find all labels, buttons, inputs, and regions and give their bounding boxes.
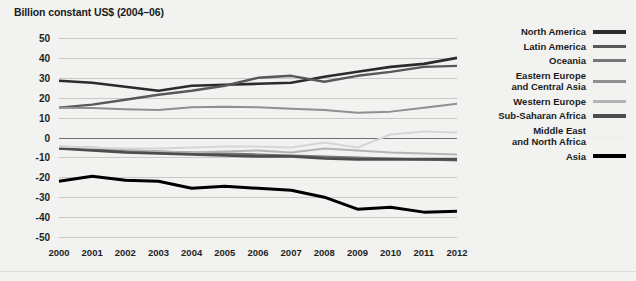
x-axis-tick-label: 2005 bbox=[214, 247, 235, 258]
y-axis-tick-label: 20 bbox=[8, 92, 50, 103]
legend-item: Sub-Saharan Africa bbox=[468, 110, 626, 122]
legend-color-swatch bbox=[593, 100, 626, 103]
chart-figure: Billion constant US$ (2004–06) 504030201… bbox=[0, 0, 636, 281]
chart-legend: North AmericaLatin AmericaOceaniaEastern… bbox=[468, 26, 626, 165]
y-axis-tick-label: -40 bbox=[8, 212, 50, 223]
chart-axis-title: Billion constant US$ (2004–06) bbox=[14, 6, 164, 18]
series-lines bbox=[59, 38, 457, 237]
x-axis-tick-label: 2000 bbox=[48, 247, 69, 258]
legend-item: Eastern Europe and Central Asia bbox=[468, 70, 626, 93]
gridline bbox=[59, 237, 457, 238]
legend-item-label: Sub-Saharan Africa bbox=[468, 110, 593, 122]
series-line-asia bbox=[59, 176, 457, 212]
legend-item-label: Eastern Europe and Central Asia bbox=[468, 70, 593, 93]
y-axis-tick-label: 40 bbox=[8, 52, 50, 63]
legend-color-swatch bbox=[593, 80, 626, 83]
x-axis-tick-label: 2007 bbox=[281, 247, 302, 258]
legend-item: Oceania bbox=[468, 55, 626, 67]
y-axis-tick-label: 10 bbox=[8, 112, 50, 123]
y-axis-tick-label: -50 bbox=[8, 232, 50, 243]
legend-item: Asia bbox=[468, 151, 626, 163]
x-axis-tick-label: 2004 bbox=[181, 247, 202, 258]
y-axis-tick-label: 50 bbox=[8, 33, 50, 44]
legend-item: Western Europe bbox=[468, 96, 626, 108]
series-line-middle-east-and-north-africa bbox=[59, 132, 457, 149]
legend-item-label: Western Europe bbox=[468, 96, 593, 108]
legend-item: Latin America bbox=[468, 41, 626, 53]
x-axis-tick-label: 2003 bbox=[148, 247, 169, 258]
legend-color-swatch bbox=[593, 154, 626, 158]
x-axis-tick-label: 2011 bbox=[414, 247, 435, 258]
legend-color-swatch bbox=[593, 45, 626, 48]
y-axis-tick-label: 0 bbox=[8, 132, 50, 143]
x-axis-tick-label: 2010 bbox=[380, 247, 401, 258]
x-axis: 2000200120022003200420052006200720082009… bbox=[59, 247, 457, 263]
y-axis-tick-label: -30 bbox=[8, 192, 50, 203]
series-line-north-america bbox=[59, 58, 457, 91]
legend-item: North America bbox=[468, 26, 626, 38]
y-axis-tick-label: -20 bbox=[8, 172, 50, 183]
y-axis-tick-label: 30 bbox=[8, 72, 50, 83]
y-axis-tick-label: -10 bbox=[8, 152, 50, 163]
x-axis-tick-label: 2001 bbox=[82, 247, 103, 258]
x-axis-tick-label: 2002 bbox=[115, 247, 136, 258]
plot-area bbox=[59, 38, 457, 237]
legend-color-swatch bbox=[593, 114, 626, 118]
x-axis-tick-label: 2008 bbox=[314, 247, 335, 258]
bottom-divider bbox=[0, 271, 636, 272]
series-line-eastern-europe-and-central-asia bbox=[59, 104, 457, 113]
x-axis-tick-label: 2012 bbox=[446, 247, 467, 258]
legend-color-swatch bbox=[593, 59, 626, 62]
legend-item-label: Asia bbox=[468, 151, 593, 163]
legend-item: Middle East and North Africa bbox=[468, 125, 626, 148]
y-axis: 50403020100-10-20-30-40-50 bbox=[0, 38, 50, 237]
legend-item-label: Middle East and North Africa bbox=[468, 125, 593, 148]
legend-item-label: North America bbox=[468, 26, 593, 38]
x-axis-tick-label: 2009 bbox=[347, 247, 368, 258]
legend-item-label: Oceania bbox=[468, 55, 593, 67]
legend-color-swatch bbox=[593, 30, 626, 34]
legend-item-label: Latin America bbox=[468, 41, 593, 53]
x-axis-tick-label: 2006 bbox=[247, 247, 268, 258]
legend-color-swatch bbox=[593, 135, 626, 138]
